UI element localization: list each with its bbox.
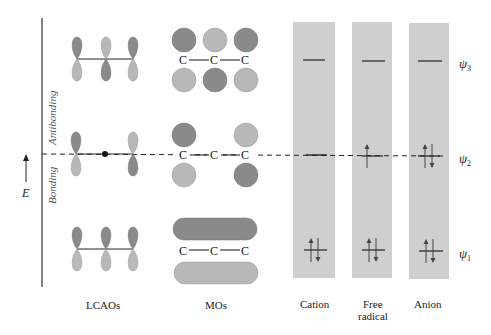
psi3-label: ψ 3 [459, 56, 471, 73]
lcao-psi2 [71, 132, 138, 176]
svg-text:C: C [179, 53, 187, 67]
mo-psi1: C C C [173, 218, 258, 284]
free-radical-label-line1: Free [363, 298, 383, 310]
bonding-label: Bonding [46, 166, 58, 204]
node-dot [102, 151, 108, 157]
svg-text:C: C [179, 148, 187, 162]
energy-label: E [21, 186, 30, 200]
svg-text:C: C [210, 53, 218, 67]
mo-psi3: C C C [172, 28, 258, 92]
cation-panel [293, 138, 335, 278]
svg-text:3: 3 [467, 64, 471, 73]
psi2-label: ψ 2 [459, 151, 471, 168]
svg-text:C: C [241, 53, 249, 67]
cation-panel-top [293, 22, 335, 138]
svg-text:C: C [210, 244, 218, 258]
svg-text:2: 2 [467, 159, 471, 168]
lcao-psi3 [72, 37, 138, 81]
svg-text:C: C [210, 148, 218, 162]
antibonding-label: Antibonding [46, 90, 58, 146]
svg-text:C: C [241, 244, 249, 258]
psi1-label: ψ 1 [459, 246, 471, 263]
svg-text:C: C [179, 244, 187, 258]
allyl-mo-diagram: E Antibonding Bonding [0, 0, 491, 335]
free-radical-label-line2: radical [358, 310, 388, 322]
lcao-psi1 [72, 227, 138, 271]
energy-arrow-icon [23, 154, 29, 182]
svg-text:C: C [241, 148, 249, 162]
anion-label: Anion [414, 298, 442, 310]
svg-text:1: 1 [467, 254, 471, 263]
mos-label: MOs [205, 299, 227, 311]
lcaos-label: LCAOs [86, 299, 120, 311]
mo-psi2: C C C [172, 123, 258, 187]
cation-label: Cation [300, 298, 330, 310]
